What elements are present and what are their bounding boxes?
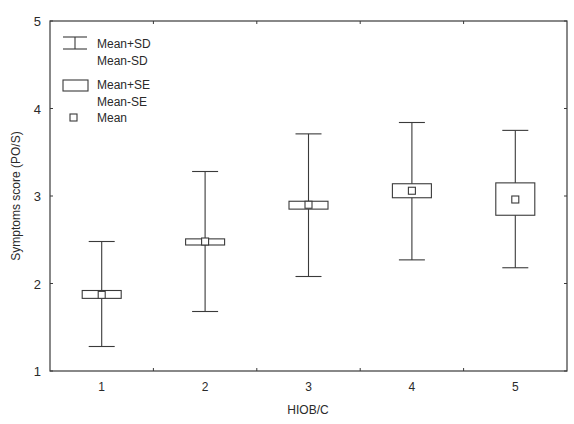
y-tick-label: 5 [34, 14, 41, 29]
legend-label-mean-minus-sd: Mean-SD [97, 54, 148, 68]
x-tick-label: 4 [409, 380, 416, 394]
y-tick-label: 4 [34, 102, 41, 117]
y-axis-ticks: 12345 [34, 14, 567, 379]
box-group-3 [289, 134, 328, 277]
y-axis-label: Symptoms score (PO/S) [9, 131, 23, 260]
box-group-5 [496, 130, 535, 267]
legend-label-mean-plus-sd: Mean+SD [97, 37, 151, 51]
box-group-2 [186, 172, 225, 312]
data-series [82, 123, 535, 347]
x-axis-label: HIOB/C [287, 403, 329, 417]
y-tick-label: 1 [34, 364, 41, 379]
y-tick-label: 3 [34, 189, 41, 204]
legend-label-mean-plus-se: Mean+SE [97, 78, 150, 92]
legend: Mean+SD Mean-SD Mean+SE Mean-SE Mean [63, 37, 151, 125]
mean-marker [512, 196, 519, 203]
mean-marker [305, 201, 312, 208]
box-whisker-chart: 12345 12345 HIOB/C Symptoms score (PO/S)… [0, 0, 574, 424]
x-tick-label: 1 [98, 380, 105, 394]
legend-mean-square-icon [70, 114, 77, 121]
legend-label-mean-minus-se: Mean-SE [97, 95, 147, 109]
y-tick-label: 2 [34, 277, 41, 292]
box-group-4 [392, 123, 431, 260]
mean-marker [408, 187, 415, 194]
legend-box-icon [63, 80, 88, 91]
x-tick-label: 5 [512, 380, 519, 394]
x-tick-label: 3 [305, 380, 312, 394]
legend-whisker-icon [63, 37, 87, 49]
mean-marker [202, 238, 209, 245]
legend-label-mean: Mean [97, 111, 127, 125]
mean-marker [98, 291, 105, 298]
box-group-1 [82, 242, 121, 347]
x-tick-label: 2 [202, 380, 209, 394]
